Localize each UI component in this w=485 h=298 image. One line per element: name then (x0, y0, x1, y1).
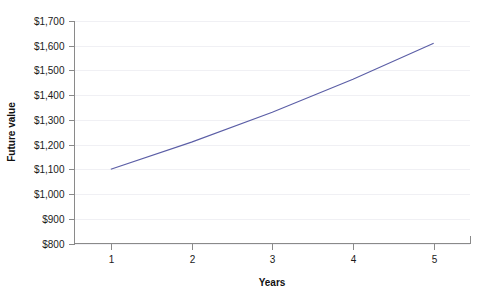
x-axis-title: Years (259, 277, 286, 288)
y-tick-label: $1,100 (34, 164, 65, 175)
y-tick-label: $1,600 (34, 41, 65, 52)
x-tick-label: 4 (351, 254, 357, 265)
y-tick-label: $1,500 (34, 65, 65, 76)
y-tick-label: $1,200 (34, 140, 65, 151)
y-tick-label: $1,300 (34, 115, 65, 126)
series-line-future-value (111, 43, 434, 169)
y-tick-label: $900 (42, 214, 65, 225)
y-tick-label: $1,700 (34, 16, 65, 27)
x-tick-label: 5 (432, 254, 438, 265)
chart-canvas: $800$900$1,000$1,100$1,200$1,300$1,400$1… (0, 0, 485, 298)
gridlines (75, 22, 471, 245)
x-tick-label: 1 (109, 254, 115, 265)
y-tick-label: $1,000 (34, 189, 65, 200)
x-tick-label: 2 (190, 254, 196, 265)
y-tick-label: $1,400 (34, 90, 65, 101)
x-axis-ticks: 12345 (109, 244, 438, 265)
y-axis-ticks: $800$900$1,000$1,100$1,200$1,300$1,400$1… (34, 16, 75, 250)
y-axis-title: Future value (6, 102, 17, 162)
x-tick-label: 3 (270, 254, 276, 265)
line-chart: $800$900$1,000$1,100$1,200$1,300$1,400$1… (0, 0, 485, 298)
y-tick-label: $800 (42, 239, 65, 250)
